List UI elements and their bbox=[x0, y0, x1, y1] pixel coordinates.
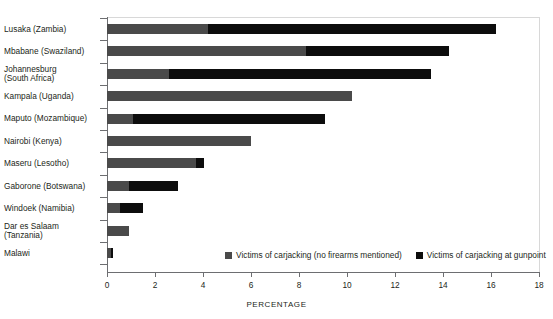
bar-segment-gunpoint bbox=[133, 114, 325, 124]
x-tick bbox=[491, 272, 492, 277]
y-tick bbox=[100, 242, 107, 243]
bar-segment-no-firearms bbox=[107, 114, 133, 124]
bar-segment-gunpoint bbox=[196, 158, 204, 168]
x-tick-label: 2 bbox=[140, 280, 170, 290]
y-tick bbox=[100, 40, 107, 41]
bar-segment-gunpoint bbox=[120, 203, 143, 213]
bar-row bbox=[107, 181, 539, 191]
category-label: Maseru (Lesotho) bbox=[4, 159, 96, 169]
bar-row bbox=[107, 46, 539, 56]
bar-row bbox=[107, 91, 539, 101]
x-tick-label: 18 bbox=[524, 280, 553, 290]
bar-segment-no-firearms bbox=[107, 203, 120, 213]
y-tick bbox=[100, 264, 107, 265]
x-tick-label: 6 bbox=[236, 280, 266, 290]
bar-row bbox=[107, 69, 539, 79]
x-tick-label: 16 bbox=[476, 280, 506, 290]
bar-segment-no-firearms bbox=[107, 136, 251, 146]
bar-segment-no-firearms bbox=[107, 226, 129, 236]
bar-segment-no-firearms bbox=[107, 69, 169, 79]
x-tick bbox=[443, 272, 444, 277]
y-tick bbox=[100, 197, 107, 198]
y-tick bbox=[100, 175, 107, 176]
category-label: Kampala (Uganda) bbox=[4, 92, 96, 102]
x-tick-label: 10 bbox=[332, 280, 362, 290]
bar-segment-no-firearms bbox=[107, 24, 208, 34]
bar-row bbox=[107, 114, 539, 124]
x-tick-label: 14 bbox=[428, 280, 458, 290]
category-label: Lusaka (Zambia) bbox=[4, 25, 96, 35]
x-axis-line bbox=[107, 272, 540, 273]
bar-segment-gunpoint bbox=[129, 181, 178, 191]
category-label: Dar es Salaam (Tanzania) bbox=[4, 222, 96, 241]
category-label: Gaborone (Botswana) bbox=[4, 182, 96, 192]
bar-segment-no-firearms bbox=[107, 181, 129, 191]
bar-chart: Lusaka (Zambia)Mbabane (Swaziland)Johann… bbox=[0, 0, 553, 319]
category-label: Malawi bbox=[4, 249, 96, 259]
bar-row bbox=[107, 158, 539, 168]
bar-segment-no-firearms bbox=[107, 158, 196, 168]
x-tick bbox=[107, 272, 108, 277]
legend-swatch-icon-black bbox=[416, 252, 423, 259]
legend-item-gunpoint: Victims of carjacking at gunpoint bbox=[416, 250, 546, 260]
category-label: Windoek (Namibia) bbox=[4, 204, 96, 214]
bar-row bbox=[107, 226, 539, 236]
category-axis-labels: Lusaka (Zambia)Mbabane (Swaziland)Johann… bbox=[0, 18, 96, 270]
y-tick bbox=[100, 18, 107, 19]
category-label: Mbabane (Swaziland) bbox=[4, 47, 96, 57]
x-axis-title: PERCENTAGE bbox=[0, 300, 553, 309]
x-tick bbox=[539, 272, 540, 277]
x-tick-label: 0 bbox=[92, 280, 122, 290]
y-tick bbox=[100, 130, 107, 131]
bar-segment-gunpoint bbox=[169, 69, 431, 79]
x-tick bbox=[395, 272, 396, 277]
bar-segment-gunpoint bbox=[208, 24, 496, 34]
bar-segment-no-firearms bbox=[107, 91, 352, 101]
bar-segment-no-firearms bbox=[107, 46, 306, 56]
legend-swatch-icon-gray bbox=[225, 252, 232, 259]
y-tick bbox=[100, 108, 107, 109]
legend-item-no-firearms: Victims of carjacking (no firearms menti… bbox=[225, 250, 402, 260]
category-label: Johannesburg (South Africa) bbox=[4, 65, 96, 84]
legend-label-no-firearms: Victims of carjacking (no firearms menti… bbox=[236, 250, 402, 260]
bar-row bbox=[107, 24, 539, 34]
x-tick-label: 12 bbox=[380, 280, 410, 290]
x-tick bbox=[347, 272, 348, 277]
bar-segment-gunpoint bbox=[111, 248, 113, 258]
y-tick bbox=[100, 152, 107, 153]
x-tick bbox=[251, 272, 252, 277]
legend-label-gunpoint: Victims of carjacking at gunpoint bbox=[427, 250, 546, 260]
bar-row bbox=[107, 203, 539, 213]
bar-row bbox=[107, 136, 539, 146]
legend: Victims of carjacking (no firearms menti… bbox=[225, 250, 546, 260]
y-tick bbox=[100, 220, 107, 221]
y-tick bbox=[100, 85, 107, 86]
x-tick bbox=[203, 272, 204, 277]
bar-segment-gunpoint bbox=[306, 46, 449, 56]
x-tick bbox=[155, 272, 156, 277]
x-tick-label: 4 bbox=[188, 280, 218, 290]
category-label: Maputo (Mozambique) bbox=[4, 114, 96, 124]
y-tick bbox=[100, 63, 107, 64]
x-tick-label: 8 bbox=[284, 280, 314, 290]
x-tick bbox=[299, 272, 300, 277]
category-label: Nairobi (Kenya) bbox=[4, 137, 96, 147]
